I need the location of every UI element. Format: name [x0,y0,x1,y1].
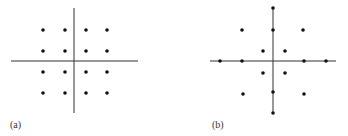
constellation-point [41,70,45,74]
constellation-point [324,59,328,63]
constellation-point [271,90,275,94]
constellation-point [302,92,306,96]
constellation-point [261,49,265,53]
constellation-point [271,28,275,32]
constellation-point [241,92,245,96]
panel-a-label: (a) [10,119,21,130]
constellation-point [63,28,67,32]
constellation-point [63,70,67,74]
panel-b-label: (b) [212,119,224,130]
constellation-point [283,49,287,53]
constellation-point [283,71,287,75]
constellation-point [105,70,109,74]
constellation-point [84,70,88,74]
constellation-point [105,28,109,32]
panel-b [210,6,336,115]
constellation-point [302,59,306,63]
constellation-point [41,28,45,32]
panel-a [11,8,138,113]
constellation-figure [0,0,348,136]
constellation-point [84,49,88,53]
constellation-point [63,91,67,95]
constellation-point [41,49,45,53]
constellation-point [240,28,244,32]
constellation-point [84,91,88,95]
constellation-point [105,91,109,95]
constellation-point [261,71,265,75]
constellation-point [84,28,88,32]
constellation-point [240,59,244,63]
constellation-point [301,28,305,32]
constellation-point [271,6,275,10]
constellation-point [41,91,45,95]
constellation-point [218,59,222,63]
constellation-point [271,111,275,115]
constellation-point [63,49,67,53]
constellation-point [105,49,109,53]
